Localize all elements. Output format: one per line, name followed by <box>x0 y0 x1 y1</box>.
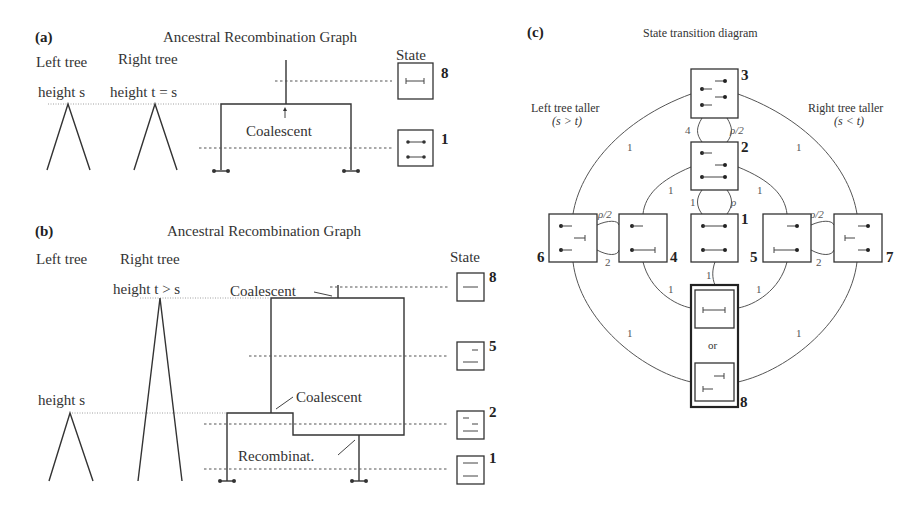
panel-c: (c) State transition diagram Left tree t… <box>527 24 894 410</box>
edge-5-7-bottom <box>811 250 834 255</box>
rate-2-1-right: ρ <box>730 196 736 208</box>
edge-6-4-bottom <box>597 250 619 255</box>
state-number-8: 8 <box>441 65 449 81</box>
state-number-1: 1 <box>441 131 449 147</box>
recombination-label: Recombinat. <box>238 448 314 464</box>
rate-outer: 1 <box>756 283 762 295</box>
panel-a-label: (a) <box>35 29 53 46</box>
left-height-label: height s <box>38 392 85 408</box>
state-number-2: 2 <box>489 404 497 420</box>
pointer-line <box>314 292 332 296</box>
right-height-label: height t > s <box>113 281 180 297</box>
state-box-7 <box>834 214 882 262</box>
left-tree <box>49 413 93 481</box>
arrowhead-icon <box>283 107 287 111</box>
state-box-2 <box>457 411 484 439</box>
figure-canvas: (a) Ancestral Recombination Graph Left t… <box>0 0 924 514</box>
edge-1-8 <box>713 262 715 285</box>
edge-5-7-top <box>811 221 834 225</box>
rate-outer: 1 <box>668 184 674 196</box>
right-tree-label: Right tree <box>118 51 178 67</box>
state-box-4 <box>619 214 667 262</box>
rate-6-4-bottom: 2 <box>605 256 611 268</box>
rate-5-7-bottom: 2 <box>816 256 822 268</box>
state-header: State <box>450 249 480 265</box>
rate-3-2-right: ρ/2 <box>729 124 744 136</box>
state-box-5 <box>763 214 811 262</box>
state-number-3: 3 <box>741 67 749 83</box>
left-tree <box>47 104 90 170</box>
state-number-7: 7 <box>886 249 894 265</box>
state-number-1: 1 <box>741 211 749 227</box>
left-height-label: height s <box>38 84 85 100</box>
panel-b-label: (b) <box>35 223 53 240</box>
state-box-3 <box>691 69 738 118</box>
state-number-8: 8 <box>740 394 748 410</box>
left-tree-label: Left tree <box>36 251 88 267</box>
right-tree <box>138 298 182 481</box>
state-8-option-a <box>695 290 734 328</box>
left-tree-label: Left tree <box>36 54 88 70</box>
state-header: State <box>396 47 426 63</box>
edge-2-5 <box>738 167 787 214</box>
rate-1-8: 1 <box>706 269 712 281</box>
right-tree <box>134 104 177 170</box>
state-box-6 <box>549 214 597 262</box>
left-condition: (s > t) <box>552 114 582 128</box>
rate-outer: 1 <box>757 184 763 196</box>
state-number-1: 1 <box>489 450 497 466</box>
panel-a: (a) Ancestral Recombination Graph Left t… <box>35 29 449 173</box>
state-box-2 <box>691 142 738 190</box>
edge-2-1-left <box>698 190 703 214</box>
state-number-6: 6 <box>537 249 545 265</box>
right-tree-taller-label: Right tree taller <box>808 101 883 115</box>
state-box-1 <box>457 456 484 484</box>
edge-5-8 <box>738 262 787 308</box>
right-condition: (s < t) <box>834 114 864 128</box>
pointer-line <box>338 440 355 455</box>
state-number-5: 5 <box>489 338 497 354</box>
right-tree-label: Right tree <box>120 251 180 267</box>
rate-outer: 1 <box>627 141 633 153</box>
edge-6-4-top <box>597 221 619 225</box>
state-number-5: 5 <box>750 249 758 265</box>
panel-b-title: Ancestral Recombination Graph <box>167 223 362 239</box>
rate-3-2-left: 4 <box>685 124 691 136</box>
rate-outer: 1 <box>668 283 674 295</box>
edge-7-8 <box>738 262 857 382</box>
coalescent-mid-label: Coalescent <box>296 389 363 405</box>
rate-outer: 1 <box>627 327 633 339</box>
or-label: or <box>708 339 718 351</box>
state-number-8: 8 <box>489 269 497 285</box>
rate-outer: 1 <box>796 327 802 339</box>
panel-a-title: Ancestral Recombination Graph <box>163 29 358 45</box>
coalescent-top-label: Coalescent <box>230 283 297 299</box>
edge-3-2-left <box>698 118 703 142</box>
panel-c-label: (c) <box>527 24 544 41</box>
edge-6-8 <box>573 262 691 382</box>
panel-c-title: State transition diagram <box>643 26 758 40</box>
edge-2-4 <box>643 167 691 214</box>
rate-outer: 1 <box>796 141 802 153</box>
state-number-2: 2 <box>741 139 749 155</box>
state-box-1 <box>398 130 433 166</box>
right-height-label: height t = s <box>110 84 177 100</box>
edge-4-8 <box>643 262 691 308</box>
panel-b: (b) Ancestral Recombination Graph Left t… <box>35 223 497 484</box>
left-tree-taller-label: Left tree taller <box>531 101 600 115</box>
pointer-line <box>276 397 293 409</box>
state-box-5 <box>457 342 484 370</box>
rate-6-4-top: ρ/2 <box>597 208 612 220</box>
coalescent-label: Coalescent <box>246 123 313 139</box>
state-box-1 <box>691 214 738 262</box>
state-8-option-b <box>695 363 734 401</box>
rate-2-1-left: 1 <box>690 196 696 208</box>
state-number-4: 4 <box>670 249 678 265</box>
